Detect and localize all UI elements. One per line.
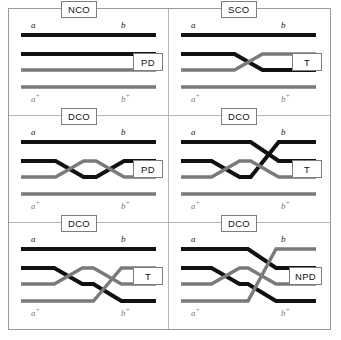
strand-label-a-plus: a+	[191, 92, 200, 104]
crossover-type-box: NCO	[61, 1, 97, 18]
strand-1	[181, 249, 316, 268]
tetrad-type-label: T	[145, 271, 151, 282]
strand-label-a-plus: a+	[191, 306, 200, 318]
strand-label-a-top-text: a	[31, 234, 36, 244]
strand-label-b-plus: b+	[121, 199, 130, 211]
panel-dco-t-upper: DCOTaba+b+	[169, 116, 328, 222]
strand-label-a-plus: a+	[31, 92, 40, 104]
strand-label-a-top-text: a	[31, 127, 36, 137]
strand-label-b-top: b	[281, 234, 286, 244]
strand-label-b-plus: b+	[121, 92, 130, 104]
crossover-type-label: SCO	[228, 3, 250, 16]
tetrad-type-box: T	[292, 53, 322, 71]
tetrad-type-label: T	[304, 164, 310, 175]
strand-label-a-plus: a+	[31, 199, 40, 211]
strand-label-b-top-text: b	[281, 234, 286, 244]
panel-sco-t: SCOTaba+b+	[169, 9, 328, 115]
crossover-type-box: DCO	[221, 215, 257, 232]
strand-label-a-top: a	[31, 127, 36, 137]
panel-dco-pd: DCOPDaba+b+	[9, 116, 168, 222]
tetrad-type-label: PD	[141, 57, 155, 68]
strand-label-a-plus-superscript: +	[36, 199, 40, 206]
crossover-type-label: NCO	[68, 3, 90, 16]
strand-label-b-plus-superscript: +	[126, 306, 130, 313]
panel-dco-npd: DCONPDaba+b+	[169, 223, 328, 329]
panel-dco-t-lower: DCOTaba+b+	[9, 223, 168, 329]
crossover-type-label: DCO	[228, 110, 250, 123]
strand-label-b-plus: b+	[281, 92, 290, 104]
strand-label-b-top-text: b	[281, 20, 286, 30]
strand-label-b-plus: b+	[121, 306, 130, 318]
tetrad-type-box: T	[133, 267, 163, 285]
strand-label-b-top-text: b	[121, 20, 126, 30]
crossover-type-box: DCO	[61, 215, 97, 232]
tetrad-type-label: NPD	[295, 271, 316, 282]
crossover-type-box: DCO	[221, 108, 257, 125]
strand-label-b-top-text: b	[121, 234, 126, 244]
crossover-type-label: DCO	[228, 217, 250, 230]
strand-1	[181, 142, 316, 161]
tetrad-type-label: PD	[141, 164, 155, 175]
strand-label-a-plus-superscript: +	[196, 199, 200, 206]
strand-label-a-plus: a+	[31, 306, 40, 318]
strand-label-b-plus-superscript: +	[286, 306, 290, 313]
tetrad-type-label: T	[304, 57, 310, 68]
panel-nco-pd: NCOPDaba+b+	[9, 9, 168, 115]
strand-label-a-top: a	[191, 127, 196, 137]
strand-label-a-plus-superscript: +	[36, 92, 40, 99]
crossover-type-box: DCO	[61, 108, 97, 125]
crossover-type-label: DCO	[68, 217, 90, 230]
strand-label-a-top-text: a	[191, 20, 196, 30]
strand-label-a-plus-superscript: +	[36, 306, 40, 313]
tetrad-type-box: T	[292, 160, 322, 178]
strand-label-a-top: a	[31, 234, 36, 244]
tetrad-type-box: PD	[133, 160, 163, 178]
crossover-type-box: SCO	[221, 1, 257, 18]
strand-label-b-top-text: b	[121, 127, 126, 137]
tetrad-type-box: PD	[133, 53, 163, 71]
strand-label-a-plus-superscript: +	[196, 306, 200, 313]
strand-label-a-top-text: a	[191, 127, 196, 137]
strand-label-a-top: a	[31, 20, 36, 30]
strand-label-a-top-text: a	[31, 20, 36, 30]
strand-label-b-top: b	[121, 234, 126, 244]
strand-label-b-plus: b+	[281, 306, 290, 318]
strand-label-b-top: b	[281, 20, 286, 30]
strand-label-b-plus: b+	[281, 199, 290, 211]
strand-label-b-plus-superscript: +	[286, 92, 290, 99]
strand-label-a-top: a	[191, 234, 196, 244]
strand-label-b-top-text: b	[281, 127, 286, 137]
strand-label-b-plus-superscript: +	[286, 199, 290, 206]
figure-frame: NCOPDaba+b+SCOTaba+b+DCOPDaba+b+DCOTaba+…	[8, 8, 331, 330]
strand-label-a-plus-superscript: +	[196, 92, 200, 99]
strand-label-b-top: b	[121, 127, 126, 137]
strand-label-a-top: a	[191, 20, 196, 30]
strand-label-a-top-text: a	[191, 234, 196, 244]
strand-label-b-plus-superscript: +	[126, 199, 130, 206]
strand-label-b-plus-superscript: +	[126, 92, 130, 99]
tetrad-type-box: NPD	[289, 267, 322, 285]
strand-label-b-top: b	[121, 20, 126, 30]
strand-label-a-plus: a+	[191, 199, 200, 211]
strand-label-b-top: b	[281, 127, 286, 137]
crossover-type-label: DCO	[68, 110, 90, 123]
